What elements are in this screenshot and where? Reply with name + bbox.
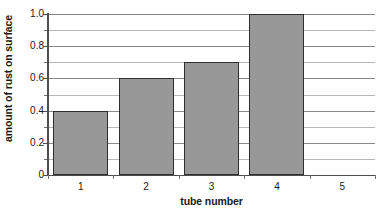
y-axis-tick-label: 0.2	[30, 138, 44, 148]
bar-slot[interactable]	[48, 14, 113, 175]
bar[interactable]	[53, 111, 108, 175]
y-axis-tick-labels: 00.20.40.60.81.0	[18, 14, 44, 175]
y-axis-title: amount of rust on surface	[0, 0, 16, 185]
x-axis-tick-label: 5	[310, 180, 375, 194]
bar[interactable]	[249, 14, 304, 175]
bar-slot[interactable]	[310, 14, 375, 175]
bar[interactable]	[184, 62, 239, 175]
plot-area	[48, 14, 375, 175]
bar-slot[interactable]	[113, 14, 178, 175]
x-tick	[375, 175, 376, 179]
bar[interactable]	[119, 78, 174, 175]
y-axis-line	[47, 13, 49, 176]
x-axis-tick-label: 4	[244, 180, 309, 194]
x-tick	[310, 175, 311, 179]
x-axis-tick-label: 2	[113, 180, 178, 194]
x-axis-title: tube number	[48, 195, 375, 207]
y-axis-tick-label: 0.4	[30, 106, 44, 116]
y-axis-tick-label: 0.8	[30, 41, 44, 51]
x-axis-tick-label: 1	[48, 180, 113, 194]
bar-series	[48, 14, 375, 175]
x-axis-tick-labels: 12345	[48, 180, 375, 194]
x-tick	[48, 175, 49, 179]
x-axis-tick-label: 3	[179, 180, 244, 194]
y-axis-tick-label: 1.0	[30, 9, 44, 19]
y-axis-tick-label: 0.6	[30, 73, 44, 83]
bar-slot[interactable]	[244, 14, 309, 175]
bar-slot[interactable]	[179, 14, 244, 175]
x-tick	[179, 175, 180, 179]
x-tick	[113, 175, 114, 179]
x-tick	[244, 175, 245, 179]
bar-chart: amount of rust on surface 00.20.40.60.81…	[0, 0, 386, 213]
